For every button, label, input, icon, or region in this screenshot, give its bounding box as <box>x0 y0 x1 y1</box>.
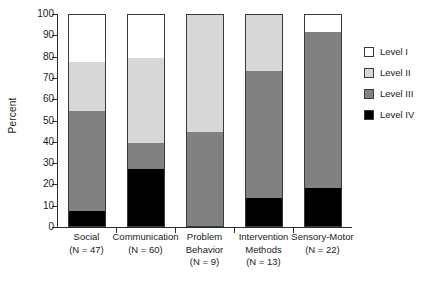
legend-item: Level IV <box>364 104 430 125</box>
legend-label: Level IV <box>380 109 414 120</box>
bar-segment-level-iv <box>305 188 341 226</box>
y-axis-line <box>57 14 58 228</box>
y-tick-label: 30 <box>43 158 54 168</box>
bar-segment-level-iii <box>128 143 164 169</box>
y-tick-label: 70 <box>43 73 54 83</box>
legend-swatch <box>364 110 374 120</box>
y-tick-label: 40 <box>43 137 54 147</box>
legend-swatch <box>364 68 374 78</box>
bar-segment-level-i <box>128 14 164 58</box>
bar-social <box>68 14 106 227</box>
bar-segment-level-ii <box>246 14 282 71</box>
bar-problem-behavior <box>186 14 224 227</box>
bar-segment-level-iii <box>69 111 105 211</box>
x-category-label: Sensory-Motor(N = 22) <box>283 231 362 256</box>
bar-segment-level-i <box>305 14 341 32</box>
legend-swatch <box>364 89 374 99</box>
bar-segment-level-i <box>69 14 105 62</box>
x-axis-line <box>57 227 352 228</box>
x-category-label-line: (N = 13) <box>224 256 303 269</box>
stacked-bar-chart: Percent 0102030405060708090100 Social(N … <box>0 0 432 285</box>
legend: Level ILevel IILevel IIILevel IV <box>364 41 430 125</box>
y-axis-label: Percent <box>2 0 24 230</box>
bar-segment-level-iv <box>69 211 105 226</box>
y-tick-label: 60 <box>43 94 54 104</box>
y-tick-label: 50 <box>43 116 54 126</box>
x-axis-category-labels: Social(N = 47)Communication(N = 60)Probl… <box>57 231 352 285</box>
bar-segment-level-iii <box>305 32 341 187</box>
y-tick-label: 90 <box>43 30 54 40</box>
legend-item: Level III <box>364 83 430 104</box>
y-tick-label: 20 <box>43 179 54 189</box>
legend-item: Level II <box>364 62 430 83</box>
x-category-label-line: (N = 22) <box>283 244 362 257</box>
legend-swatch <box>364 47 374 57</box>
bar-sensory-motor <box>304 14 342 227</box>
bar-segment-level-iii <box>187 132 223 226</box>
bar-segment-level-ii <box>128 58 164 143</box>
bar-segment-level-iv <box>246 198 282 226</box>
y-tick-label: 80 <box>43 52 54 62</box>
plot-area: 0102030405060708090100 <box>57 14 352 228</box>
x-category-label-line: Sensory-Motor <box>283 231 362 244</box>
legend-label: Level I <box>380 46 408 57</box>
bar-intervention-methods <box>245 14 283 227</box>
bar-segment-level-ii <box>69 62 105 111</box>
y-axis-label-text: Percent <box>8 97 19 133</box>
bar-segment-level-iv <box>128 169 164 227</box>
y-tick-label: 100 <box>37 9 54 19</box>
legend-label: Level III <box>380 88 413 99</box>
bar-communication <box>127 14 165 227</box>
legend-label: Level II <box>380 67 411 78</box>
bar-segment-level-ii <box>187 14 223 132</box>
legend-item: Level I <box>364 41 430 62</box>
y-tick-label: 10 <box>43 201 54 211</box>
bar-segment-level-iii <box>246 71 282 199</box>
